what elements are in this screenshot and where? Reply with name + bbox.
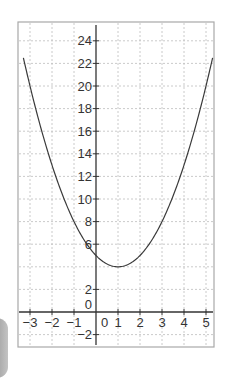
x-tick-label: 3: [158, 315, 165, 330]
x-tick-label: −2: [45, 315, 60, 330]
y-tick-label: 14: [78, 146, 92, 161]
x-tick-label: 4: [180, 315, 187, 330]
y-tick-label: 22: [78, 56, 92, 71]
y-tick-label: 24: [78, 33, 92, 48]
y-tick-label: −2: [77, 327, 92, 342]
y-tick-label: 10: [78, 192, 92, 207]
y-tick-label: 12: [78, 169, 92, 184]
y-tick-label: 16: [78, 124, 92, 139]
plot-frame: [18, 22, 214, 347]
y-tick-label: 2: [85, 282, 92, 297]
x-tick-label: −3: [23, 315, 38, 330]
x-tick-label: 0: [101, 315, 108, 330]
y-tick-label: 8: [85, 214, 92, 229]
x-tick-label: 1: [114, 315, 121, 330]
y-tick-label: 18: [78, 101, 92, 116]
y-tick-label: 20: [78, 79, 92, 94]
y-tick-label: 0: [85, 297, 92, 312]
x-tick-label: 2: [136, 315, 143, 330]
x-tick-label: 5: [202, 315, 209, 330]
